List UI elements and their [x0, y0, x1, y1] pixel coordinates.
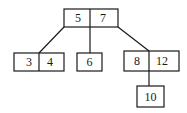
node-root-key-0: 5: [75, 11, 81, 25]
node-right-key-0: 8: [134, 54, 140, 68]
b-tree-diagram: 5 7 3 4 6 8 12 10: [0, 0, 187, 113]
node-root: 5 7: [64, 9, 118, 27]
node-right-child: 10: [137, 86, 164, 107]
node-right: 8 12: [124, 51, 179, 71]
edge-root-left: [39, 27, 64, 53]
edge-root-right: [118, 27, 149, 51]
node-middle: 6: [77, 53, 102, 71]
node-root-key-1: 7: [100, 11, 106, 25]
node-middle-key-0: 6: [87, 55, 93, 69]
node-left: 3 4: [14, 53, 64, 71]
node-right-child-key-0: 10: [145, 90, 157, 104]
node-right-key-1: 12: [156, 54, 168, 68]
node-left-key-1: 4: [47, 55, 53, 69]
node-left-key-0: 3: [26, 55, 32, 69]
